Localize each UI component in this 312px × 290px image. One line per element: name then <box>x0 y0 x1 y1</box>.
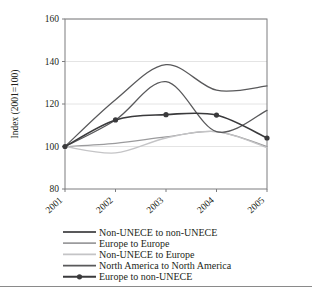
chart-figure: 80100120140160 Index (2001=100) 20012002… <box>0 0 312 290</box>
line-chart: 80100120140160 Index (2001=100) 20012002… <box>0 0 312 290</box>
series-marker <box>214 112 219 117</box>
legend-label-2: Non-UNECE to Europe <box>99 249 195 260</box>
x-tick-label: 2003 <box>145 195 166 215</box>
series-marker <box>62 144 67 149</box>
legend-label-4: Europe to non-UNECE <box>99 271 192 282</box>
x-tick-label: 2005 <box>246 195 267 215</box>
x-tick-label: 2001 <box>44 195 65 215</box>
y-tick-label: 100 <box>45 142 60 152</box>
x-tick-label: 2004 <box>195 195 216 215</box>
y-tick-label: 140 <box>45 57 60 67</box>
legend-label-0: Non-UNECE to non-UNECE <box>99 227 217 238</box>
y-axis-title: Index (2001=100) <box>10 70 21 139</box>
x-tick-labels: 20012002200320042005 <box>44 189 267 215</box>
legend-label-1: Europe to Europe <box>99 238 170 249</box>
x-tick-label: 2002 <box>94 195 115 215</box>
y-tick-labels: 80100120140160 <box>45 14 65 194</box>
y-tick-label: 80 <box>50 184 60 194</box>
series-marker <box>113 117 118 122</box>
y-tick-label: 120 <box>45 99 60 109</box>
legend-marker-4 <box>77 274 82 279</box>
legend-label-3: North America to North America <box>99 260 232 271</box>
series-marker <box>264 135 269 140</box>
footer-rule <box>0 286 312 287</box>
chart-legend: Non-UNECE to non-UNECEEurope to EuropeNo… <box>63 227 232 283</box>
y-tick-label: 160 <box>45 14 60 24</box>
series-marker <box>163 112 168 117</box>
